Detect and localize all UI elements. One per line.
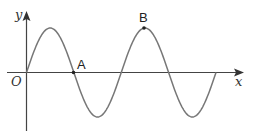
point-b-label: B [139, 10, 148, 25]
origin-label: O [11, 74, 22, 89]
y-axis-label: y [14, 7, 23, 22]
x-axis-label: x [235, 74, 243, 89]
point-a-label: A [77, 57, 86, 72]
point-a [72, 71, 76, 75]
sine-wave-diagram: y x O A B [0, 0, 254, 137]
point-b [142, 26, 146, 30]
